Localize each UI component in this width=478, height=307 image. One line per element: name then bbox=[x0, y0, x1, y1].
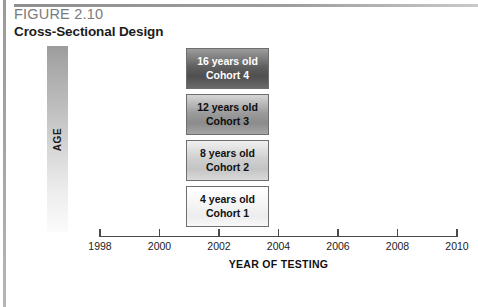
x-axis-tick bbox=[397, 229, 398, 237]
cohort-age-label: 4 years old bbox=[200, 193, 255, 206]
age-axis-label-text: AGE bbox=[52, 127, 63, 150]
x-axis-tick-label: 2006 bbox=[326, 240, 349, 252]
figure-title: Cross-Sectional Design bbox=[14, 24, 163, 39]
x-axis-tick-label: 1998 bbox=[88, 240, 111, 252]
cohort-name-label: Cohort 3 bbox=[206, 115, 249, 128]
x-axis-tick-label: 2004 bbox=[267, 240, 290, 252]
page-left-edge-rule bbox=[3, 0, 6, 307]
x-axis-tick bbox=[218, 229, 219, 237]
figure-caption bbox=[22, 298, 462, 307]
x-axis-tick bbox=[456, 229, 457, 237]
cohort-box-2: 8 years old Cohort 2 bbox=[186, 140, 269, 181]
x-axis-title: YEAR OF TESTING bbox=[100, 258, 457, 270]
cohort-name-label: Cohort 2 bbox=[206, 161, 249, 174]
cohort-name-label: Cohort 1 bbox=[206, 207, 249, 220]
x-axis-tick-label: 2000 bbox=[148, 240, 171, 252]
cohort-age-label: 12 years old bbox=[197, 101, 258, 114]
cohort-box-4: 16 years old Cohort 4 bbox=[186, 48, 269, 89]
cohort-name-label: Cohort 4 bbox=[206, 69, 249, 82]
x-axis-tick bbox=[159, 229, 160, 237]
cohort-box-3: 12 years old Cohort 3 bbox=[186, 94, 269, 135]
x-axis-tick-label: 2010 bbox=[445, 240, 468, 252]
figure-number: FIGURE 2.10 bbox=[14, 6, 103, 22]
x-axis-tick-label: 2008 bbox=[386, 240, 409, 252]
age-axis-label: AGE bbox=[47, 46, 68, 232]
cohort-age-label: 8 years old bbox=[200, 147, 255, 160]
x-axis-tick bbox=[278, 229, 279, 237]
x-axis-tick-label: 2002 bbox=[207, 240, 230, 252]
figure-container: FIGURE 2.10 Cross-Sectional Design AGE 1… bbox=[0, 0, 478, 307]
cohort-box-1: 4 years old Cohort 1 bbox=[186, 186, 269, 227]
cohort-age-label: 16 years old bbox=[197, 55, 258, 68]
x-axis-tick bbox=[99, 229, 100, 237]
x-axis-tick bbox=[337, 229, 338, 237]
